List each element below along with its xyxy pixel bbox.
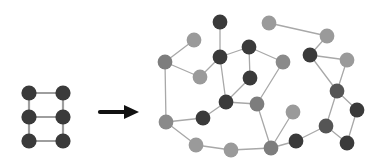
right-graph-node — [187, 33, 202, 48]
right-graph-node — [189, 138, 204, 153]
right-graph-node — [193, 70, 208, 85]
graph-figure-canvas — [0, 0, 380, 168]
right-graph-node — [276, 55, 291, 70]
right-graph-node — [213, 15, 228, 30]
right-graph-node — [330, 84, 345, 99]
left-graph-node — [55, 85, 70, 100]
right-graph-node — [340, 136, 355, 151]
right-graph-node — [262, 16, 277, 31]
right-graph-node — [289, 134, 304, 149]
right-graph-node — [158, 55, 173, 70]
right-graph-node — [264, 141, 279, 156]
right-graph-node — [340, 53, 355, 68]
right-graph-node — [286, 105, 301, 120]
figure-root — [0, 0, 380, 168]
left-graph-node — [55, 133, 70, 148]
right-graph-node — [350, 103, 365, 118]
right-graph-node — [159, 115, 174, 130]
right-graph-node — [303, 48, 318, 63]
left-graph-node — [21, 133, 36, 148]
right-graph-node — [242, 40, 257, 55]
right-graph-node — [213, 50, 228, 65]
right-graph-node — [250, 97, 265, 112]
right-graph-node — [320, 29, 335, 44]
left-graph-node — [55, 109, 70, 124]
right-graph-node — [196, 111, 211, 126]
left-graph-node — [21, 109, 36, 124]
right-graph-node — [319, 119, 334, 134]
right-graph-node — [219, 95, 234, 110]
right-graph-node — [243, 71, 258, 86]
left-graph-node — [21, 85, 36, 100]
right-graph-node — [224, 143, 239, 158]
